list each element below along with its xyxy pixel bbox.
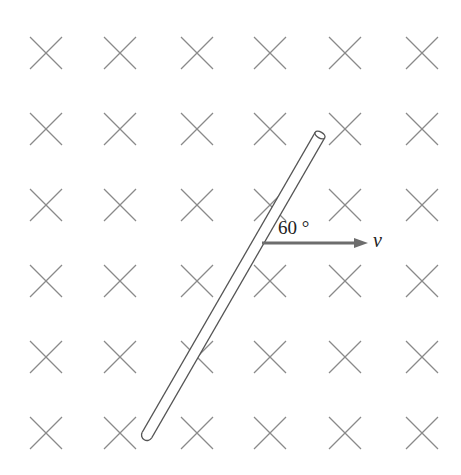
field-cross-icon [254, 341, 286, 373]
field-cross-icon [329, 417, 361, 449]
field-cross-icon [254, 37, 286, 69]
field-cross-icon [181, 37, 213, 69]
field-cross-icon [30, 265, 62, 297]
field-cross-icon [329, 113, 361, 145]
field-cross-icon [104, 417, 136, 449]
field-cross-icon [181, 113, 213, 145]
field-cross-icon [329, 189, 361, 221]
field-cross-icon [254, 417, 286, 449]
field-cross-icon [104, 189, 136, 221]
diagram-canvas: 60 ° v [0, 0, 461, 475]
field-cross-icon [406, 37, 438, 69]
field-cross-icon [30, 189, 62, 221]
field-cross-icon [30, 417, 62, 449]
field-cross-icon [406, 265, 438, 297]
field-cross-icon [30, 37, 62, 69]
field-cross-icon [181, 189, 213, 221]
diagram-svg [0, 0, 461, 475]
conducting-rod [142, 130, 327, 441]
velocity-arrow [262, 238, 368, 248]
velocity-label: v [373, 229, 382, 252]
arrowhead-icon [354, 238, 368, 248]
field-cross-icon [329, 37, 361, 69]
field-cross-icon [181, 417, 213, 449]
field-cross-icon [406, 113, 438, 145]
field-cross-icon [104, 113, 136, 145]
field-cross-icon [181, 265, 213, 297]
field-cross-icon [406, 417, 438, 449]
angle-label: 60 ° [278, 217, 309, 239]
field-cross-icon [406, 189, 438, 221]
field-cross-icon [30, 113, 62, 145]
field-cross-icon [30, 341, 62, 373]
field-cross-icon [104, 341, 136, 373]
field-cross-icon [406, 341, 438, 373]
field-cross-icon [104, 37, 136, 69]
field-cross-icon [254, 113, 286, 145]
field-cross-icon [104, 265, 136, 297]
field-cross-icon [254, 265, 286, 297]
field-cross-icon [329, 265, 361, 297]
field-cross-icon [329, 341, 361, 373]
